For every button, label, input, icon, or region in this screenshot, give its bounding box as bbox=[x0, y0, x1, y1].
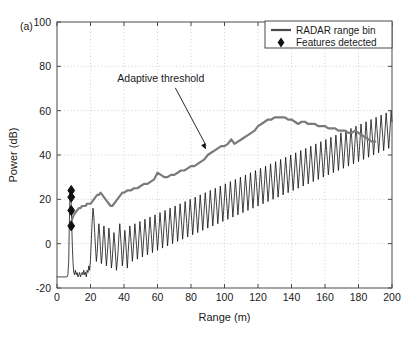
xtick-label: 200 bbox=[383, 291, 401, 303]
ytick-label: 80 bbox=[39, 60, 51, 72]
xtick-label: 80 bbox=[185, 291, 197, 303]
legend-entry-label: RADAR range bin bbox=[296, 25, 375, 36]
x-axis-title: Range (m) bbox=[199, 311, 251, 323]
xtick-label: 100 bbox=[216, 291, 234, 303]
xtick-label: 140 bbox=[283, 291, 301, 303]
xtick-label: 20 bbox=[85, 291, 97, 303]
chart-svg: 020406080100120140160180200-200204060801… bbox=[0, 0, 414, 337]
ytick-label: 40 bbox=[39, 149, 51, 161]
ytick-label: 100 bbox=[33, 16, 51, 28]
legend: RADAR range binFeatures detected bbox=[265, 21, 392, 48]
xtick-label: 40 bbox=[118, 291, 130, 303]
legend-entry-label: Features detected bbox=[296, 37, 377, 48]
ytick-label: 60 bbox=[39, 105, 51, 117]
radar-range-chart-figure: 020406080100120140160180200-200204060801… bbox=[0, 0, 414, 337]
features-detected-markers bbox=[68, 185, 75, 230]
ytick-label: 20 bbox=[39, 193, 51, 205]
xtick-label: 120 bbox=[249, 291, 267, 303]
ytick-label: -20 bbox=[36, 282, 51, 294]
xtick-label: 160 bbox=[316, 291, 334, 303]
xtick-label: 60 bbox=[152, 291, 164, 303]
panel-label: (a) bbox=[20, 20, 33, 32]
annotation-text: Adaptive threshold bbox=[117, 72, 204, 84]
y-axis-title: Power (dB) bbox=[7, 127, 19, 182]
ytick-label: 0 bbox=[45, 238, 51, 250]
xtick-label: 0 bbox=[54, 291, 60, 303]
xtick-label: 180 bbox=[350, 291, 368, 303]
